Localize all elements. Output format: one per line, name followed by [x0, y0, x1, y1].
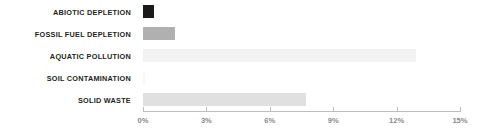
category-label-solid-waste: SOLID WASTE [0, 97, 131, 104]
x-axis-tick [460, 107, 461, 112]
bar-fill [143, 71, 145, 84]
bar-chart: ABIOTIC DEPLETION FOSSIL FUEL DEPLETION … [0, 0, 495, 139]
bar-abiotic-depletion [143, 5, 154, 18]
bar-fill [143, 5, 154, 18]
category-label-soil-contamination: SOIL CONTAMINATION [0, 75, 131, 82]
x-axis-tick-label: 0% [138, 117, 149, 125]
category-label-column: ABIOTIC DEPLETION FOSSIL FUEL DEPLETION … [0, 0, 137, 111]
x-axis-tick-label: 6% [264, 117, 275, 125]
bar-fill [143, 93, 306, 106]
x-axis-tick [397, 107, 398, 112]
x-axis-tick-label: 15% [452, 117, 467, 125]
category-label-fossil-fuel-depletion: FOSSIL FUEL DEPLETION [0, 31, 131, 38]
x-axis-tick [333, 107, 334, 112]
x-axis-tick-label: 12% [389, 117, 404, 125]
category-label-abiotic-depletion: ABIOTIC DEPLETION [0, 9, 131, 16]
x-axis-line [143, 111, 460, 112]
x-axis-tick [206, 107, 207, 112]
x-axis-tick [270, 107, 271, 112]
x-axis-tick [143, 107, 144, 112]
x-axis-tick-label: 9% [328, 117, 339, 125]
bar-fill [143, 27, 175, 40]
bar-solid-waste [143, 93, 306, 106]
x-axis-tick-label: 3% [201, 117, 212, 125]
bar-aquatic-pollution [143, 49, 416, 62]
bar-fossil-fuel-depletion [143, 27, 175, 40]
category-label-aquatic-pollution: AQUATIC POLLUTION [0, 53, 131, 60]
plot-area [143, 0, 460, 111]
bar-soil-contamination [143, 71, 145, 84]
bar-fill [143, 49, 416, 62]
